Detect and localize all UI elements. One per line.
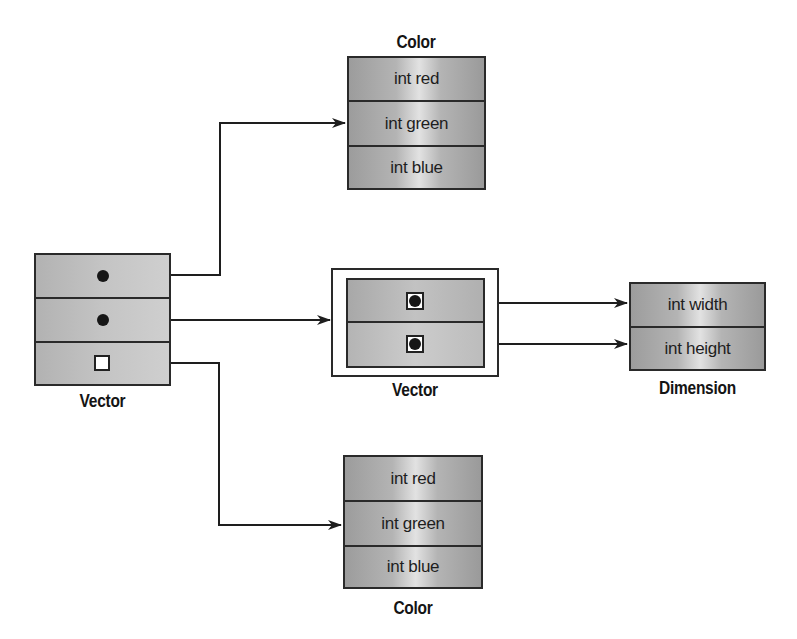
null-square-icon <box>94 355 110 371</box>
left-vector-row-0 <box>36 255 169 299</box>
reference-dot-icon <box>97 270 109 282</box>
left-vector-row-1 <box>36 299 169 343</box>
bottom-color-field-red: int red <box>345 457 481 502</box>
bottom-color-field-blue: int blue <box>345 547 481 587</box>
middle-vector-frame <box>331 268 499 377</box>
dimension-caption: Dimension <box>639 378 757 399</box>
top-color-field-blue: int blue <box>349 147 484 188</box>
middle-vector-caption: Vector <box>343 380 487 401</box>
boxed-reference-icon <box>406 335 424 353</box>
middle-vector-row-0 <box>348 280 483 323</box>
top-color-field-green: int green <box>349 102 484 147</box>
left-vector-caption: Vector <box>44 391 162 412</box>
dimension-field-width: int width <box>631 284 764 328</box>
bottom-color-field-green: int green <box>345 502 481 547</box>
dimension-box: int width int height <box>629 282 766 371</box>
bottom-color-caption: Color <box>353 598 473 619</box>
left-vector-box <box>34 253 171 386</box>
middle-vector-row-1 <box>348 323 483 366</box>
top-color-field-red: int red <box>349 58 484 102</box>
left-vector-row-2 <box>36 343 169 384</box>
dimension-field-height: int height <box>631 328 764 369</box>
middle-vector-box <box>346 278 485 368</box>
top-color-caption: Color <box>357 32 476 53</box>
arrow-to-bottom-color <box>170 363 341 525</box>
reference-dot-icon <box>409 338 421 350</box>
reference-dot-icon <box>97 314 109 326</box>
top-color-box: int red int green int blue <box>347 56 486 190</box>
boxed-reference-icon <box>406 292 424 310</box>
reference-dot-icon <box>409 295 421 307</box>
bottom-color-box: int red int green int blue <box>343 455 483 589</box>
